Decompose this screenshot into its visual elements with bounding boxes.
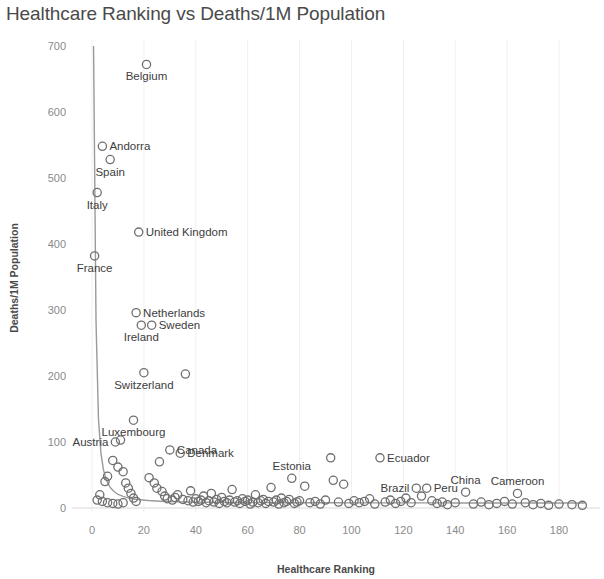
x-tick-label: 140 <box>446 524 464 536</box>
data-point <box>327 454 335 462</box>
data-point <box>186 487 194 495</box>
data-point <box>114 500 122 508</box>
point-label: France <box>77 262 113 274</box>
x-axis-ticks: 020406080100120140160180 <box>89 524 568 536</box>
point-label: Andorra <box>109 140 151 152</box>
data-point <box>106 155 114 163</box>
point-label: United Kingdom <box>146 226 228 238</box>
data-point <box>119 468 127 476</box>
y-axis-title: Deaths/1M Population <box>8 223 20 333</box>
data-point <box>119 499 127 507</box>
point-label: Brazil <box>381 482 410 494</box>
point-label: Italy <box>87 199 108 211</box>
point-label: Cameroon <box>491 475 545 487</box>
point-label: Ireland <box>124 331 159 343</box>
data-point <box>184 497 192 505</box>
data-point <box>417 492 425 500</box>
x-tick-label: 0 <box>89 524 95 536</box>
y-tick-label: 500 <box>48 172 66 184</box>
point-label: Switzerland <box>114 379 173 391</box>
point-labels: BelgiumAndorraSpainItalyUnited KingdomFr… <box>73 70 545 494</box>
data-point <box>166 446 174 454</box>
data-point <box>412 484 420 492</box>
y-tick-label: 600 <box>48 106 66 118</box>
data-point <box>329 476 337 484</box>
point-label: Netherlands <box>143 307 205 319</box>
x-tick-label: 100 <box>342 524 360 536</box>
data-point <box>376 454 384 462</box>
y-tick-label: 300 <box>48 304 66 316</box>
chart-container: Healthcare Ranking vs Deaths/1M Populati… <box>0 0 604 579</box>
point-label: Sweden <box>159 319 201 331</box>
point-label: Denmark <box>187 447 234 459</box>
data-point <box>469 500 477 508</box>
data-point <box>371 500 379 508</box>
point-label: China <box>451 474 482 486</box>
y-axis-ticks: 0100200300400500600700 <box>48 40 66 514</box>
data-point <box>129 416 137 424</box>
data-point <box>508 500 516 508</box>
data-point <box>462 488 470 496</box>
y-tick-label: 200 <box>48 370 66 382</box>
point-label: Austria <box>73 436 109 448</box>
x-axis-title: Healthcare Ranking <box>277 563 375 575</box>
data-point <box>145 474 153 482</box>
data-points <box>90 60 586 509</box>
data-point <box>513 489 521 497</box>
data-point <box>132 309 140 317</box>
data-point <box>135 228 143 236</box>
point-label: Ecuador <box>387 452 430 464</box>
x-tick-label: 120 <box>394 524 412 536</box>
x-tick-label: 80 <box>293 524 305 536</box>
data-point <box>340 480 348 488</box>
data-point <box>111 438 119 446</box>
x-tick-label: 180 <box>550 524 568 536</box>
data-point <box>301 482 309 490</box>
data-point <box>181 370 189 378</box>
data-point <box>98 142 106 150</box>
data-point <box>381 498 389 506</box>
x-tick-label: 40 <box>190 524 202 536</box>
point-label: Estonia <box>273 460 312 472</box>
data-point <box>334 498 342 506</box>
y-tick-label: 400 <box>48 238 66 250</box>
y-tick-label: 100 <box>48 436 66 448</box>
y-tick-label: 700 <box>48 40 66 52</box>
data-point <box>148 321 156 329</box>
point-label: Spain <box>95 166 124 178</box>
point-label: Belgium <box>126 70 168 82</box>
data-point <box>477 498 485 506</box>
x-tick-label: 160 <box>498 524 516 536</box>
x-tick-label: 20 <box>138 524 150 536</box>
data-point <box>423 484 431 492</box>
data-point <box>114 463 122 471</box>
scatter-plot: 020406080100120140160180 010020030040050… <box>0 0 604 579</box>
gridlines <box>92 40 559 512</box>
point-label: Luxembourg <box>102 426 166 438</box>
y-tick-label: 0 <box>60 502 66 514</box>
trend-line <box>94 46 585 503</box>
data-point <box>288 474 296 482</box>
data-point <box>267 483 275 491</box>
data-point <box>155 458 163 466</box>
data-point <box>228 485 236 493</box>
x-tick-label: 60 <box>242 524 254 536</box>
